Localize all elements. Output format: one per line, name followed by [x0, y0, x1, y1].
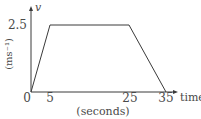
- y-axis-units: (ms⁻¹): [3, 38, 14, 70]
- x-tick-25: 25: [122, 91, 137, 105]
- x-axis-arrow-icon: [173, 90, 178, 94]
- x-axis-units: (seconds): [76, 105, 129, 118]
- y-tick-2-5: 2.5: [8, 18, 27, 32]
- y-axis-arrow-icon: [29, 6, 33, 11]
- velocity-time-graph: 2.5 v (ms⁻¹) 0 5 25 35 time (seconds): [0, 0, 201, 119]
- x-tick-0: 0: [23, 91, 31, 105]
- velocity-line: [31, 25, 166, 92]
- x-axis-name: time: [180, 91, 201, 104]
- x-tick-5: 5: [46, 91, 54, 105]
- x-tick-35: 35: [158, 91, 173, 105]
- y-axis-name: v: [35, 1, 42, 14]
